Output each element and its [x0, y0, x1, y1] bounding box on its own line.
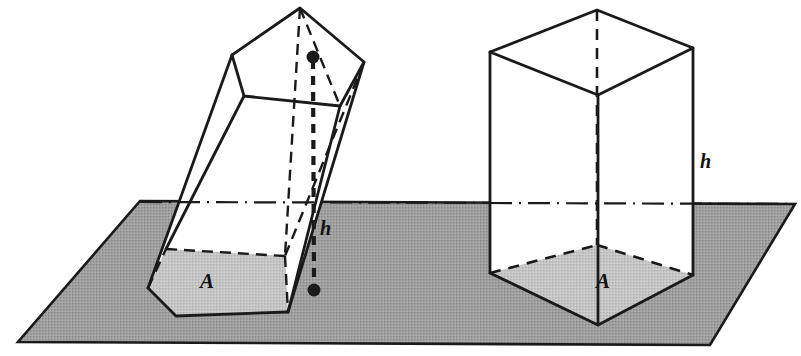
- left-height-bottom-dot: [308, 284, 321, 297]
- right-area-label: A: [594, 269, 610, 293]
- left-prism-base-area-top: [148, 249, 288, 316]
- left-area-label: A: [198, 269, 214, 293]
- right-height-label: h: [700, 150, 711, 172]
- prism-volume-figure: h A h: [0, 0, 801, 356]
- left-height-line: [313, 60, 314, 287]
- left-height-label: h: [320, 217, 331, 239]
- figure-canvas: h A h: [0, 0, 801, 356]
- left-height-top-dot: [307, 51, 320, 64]
